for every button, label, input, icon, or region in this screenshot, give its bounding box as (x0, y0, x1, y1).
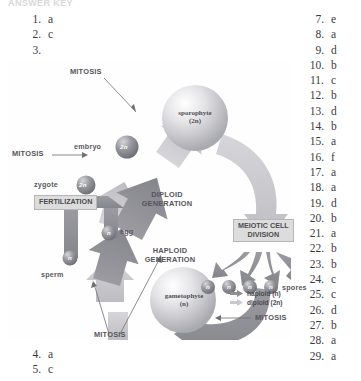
answer-value: a (41, 347, 53, 362)
answer-value: b (324, 58, 337, 73)
answer-number: 28. (305, 333, 324, 348)
answer-number: 17. (305, 165, 324, 180)
list-item: 2. c (22, 27, 53, 42)
answer-value: c (324, 272, 336, 287)
legend: haploid (n) diploid (2n) (230, 290, 283, 308)
answer-value: b (324, 88, 337, 103)
spore-2-ploidy: n (227, 283, 231, 290)
haploid-generation-line1: HAPLOID (136, 246, 204, 255)
answer-number: 5. (22, 362, 41, 377)
answer-value: a (324, 226, 336, 241)
sporophyte-name: sporophyte (163, 109, 227, 117)
list-item: 3. (22, 43, 53, 58)
mitosis-label-right: MITOSIS (255, 313, 287, 322)
answer-number: 19. (305, 196, 324, 211)
meiotic-cell-division-box: MEIOTIC CELL DIVISION (233, 219, 294, 242)
answer-value: b (324, 241, 337, 256)
answer-value: d (324, 303, 337, 318)
answer-list-right: 7.e8.a9.d10.b11.c12.b13.d14.b15.a16.f17.… (305, 12, 337, 364)
list-item: 19.d (305, 196, 337, 211)
answer-value: a (41, 12, 53, 27)
answer-value: a (324, 180, 336, 195)
diploid-arrow-swatch (230, 299, 243, 306)
answer-number: 8. (305, 27, 324, 42)
answer-number: 13. (305, 104, 324, 119)
legend-item-diploid: diploid (2n) (230, 299, 283, 306)
answer-number: 24. (305, 272, 324, 287)
meiotic-line2: DIVISION (238, 231, 289, 240)
gametophyte-ploidy: (n) (150, 300, 218, 308)
gametophyte-label: gametophyte (n) (150, 292, 218, 308)
answer-number: 10. (305, 58, 324, 73)
gametophyte-name: gametophyte (150, 292, 218, 300)
answer-value: d (324, 43, 337, 58)
list-item: 28.a (305, 333, 337, 348)
answer-number: 20. (305, 211, 324, 226)
answer-number: 25. (305, 287, 324, 302)
answer-number: 12. (305, 88, 324, 103)
answer-value: c (41, 362, 53, 377)
answer-value: c (324, 73, 336, 88)
sporophyte-ploidy: (2n) (163, 117, 227, 125)
list-item: 16.f (305, 150, 337, 165)
legend-diploid-label: diploid (2n) (247, 299, 283, 306)
list-item: 4. a (22, 347, 53, 362)
diploid-generation-line1: DIPLOID (133, 190, 201, 199)
list-item: 14.b (305, 119, 337, 134)
mitosis-label-left: MITOSIS (12, 149, 44, 158)
answer-number: 16. (305, 150, 324, 165)
zygote-label: zygote (34, 180, 58, 189)
answer-value (41, 43, 48, 58)
spore-3-ploidy: n (248, 283, 252, 290)
sperm-label: sperm (41, 270, 64, 279)
answer-number: 14. (305, 119, 324, 134)
answer-value: a (324, 27, 336, 42)
answer-value: f (324, 150, 335, 165)
answer-number: 23. (305, 257, 324, 272)
sperm-ploidy: n (68, 254, 72, 261)
running-header: ANSWER KEY (8, 0, 148, 6)
answer-value: d (324, 196, 337, 211)
egg-label: egg (120, 227, 133, 236)
answer-number: 9. (305, 43, 324, 58)
list-item: 26.d (305, 303, 337, 318)
answer-number: 4. (22, 347, 41, 362)
answer-number: 29. (305, 349, 324, 364)
list-item: 10.b (305, 58, 337, 73)
diploid-generation-line2: GENERATION (133, 199, 201, 208)
answer-value: b (324, 257, 337, 272)
list-item: 27.b (305, 318, 337, 333)
spore-1-ploidy: n (206, 283, 210, 290)
sporophyte-label: sporophyte (2n) (163, 109, 227, 125)
answer-number: 22. (305, 241, 324, 256)
list-item: 17.a (305, 165, 337, 180)
answer-list-left-bottom: 4. a 5. c (22, 347, 53, 378)
list-item: 7.e (305, 12, 337, 27)
zygote-ploidy: 2n (79, 181, 87, 188)
answer-number: 11. (305, 73, 324, 88)
embryo-ploidy: 2n (120, 143, 128, 150)
list-item: 15.a (305, 134, 337, 149)
list-item: 22.b (305, 241, 337, 256)
list-item: 21.a (305, 226, 337, 241)
fertilization-box: FERTILIZATION (34, 195, 97, 210)
list-item: 9.d (305, 43, 337, 58)
answer-value: b (324, 119, 337, 134)
answer-value: c (41, 27, 53, 42)
list-item: 13.d (305, 104, 337, 119)
list-item: 23.b (305, 257, 337, 272)
embryo-label: embryo (74, 142, 101, 151)
list-item: 8.a (305, 27, 337, 42)
answer-value: a (324, 134, 336, 149)
answer-value: b (324, 318, 337, 333)
legend-item-haploid: haploid (n) (230, 290, 283, 297)
answer-number: 27. (305, 318, 324, 333)
answer-number: 2. (22, 27, 41, 42)
answer-number: 18. (305, 180, 324, 195)
answer-number: 21. (305, 226, 324, 241)
legend-haploid-label: haploid (n) (247, 290, 281, 297)
spore-4-ploidy: n (269, 283, 273, 290)
list-item: 24.c (305, 272, 337, 287)
answer-number: 15. (305, 134, 324, 149)
haploid-generation-label: HAPLOID GENERATION (136, 246, 204, 264)
